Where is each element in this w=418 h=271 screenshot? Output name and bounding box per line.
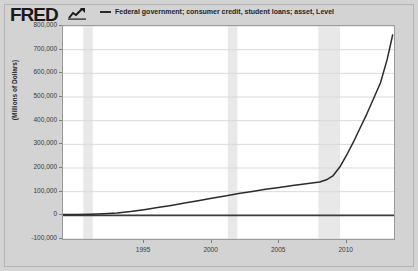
y-tick-mark [59,25,62,26]
line-swatch-icon [100,11,111,13]
chart-legend: Federal government; consumer credit, stu… [100,8,334,16]
x-tick-mark [346,240,347,243]
legend-series-label: Federal government; consumer credit, stu… [115,8,334,16]
x-tick-mark [278,240,279,243]
y-tick-label: 700,000 [1,45,57,52]
recession-bands [83,26,340,239]
x-tick-label: 2005 [258,246,298,254]
plot-area [62,25,395,240]
recession-band [83,26,92,239]
y-tick-label: 300,000 [1,139,57,146]
y-tick-mark [59,214,62,215]
x-tick-mark [143,240,144,243]
y-tick-mark [59,49,62,50]
recession-band [318,26,340,239]
chart-line-icon [68,7,86,20]
x-tick-label: 2010 [326,246,366,254]
y-tick-label: 200,000 [1,163,57,170]
y-tick-label: 400,000 [1,116,57,123]
y-tick-mark [59,167,62,168]
y-tick-mark [59,191,62,192]
y-tick-label: 800,000 [1,21,57,28]
y-tick-label: 0 [1,210,57,217]
recession-band [228,26,237,239]
y-tick-mark [59,120,62,121]
y-tick-mark [59,72,62,73]
y-tick-label: 600,000 [1,68,57,75]
y-axis: (Millions of Dollars) [0,0,62,271]
x-tick-label: 1995 [123,246,163,254]
y-tick-mark [59,143,62,144]
y-tick-label: -100,000 [1,234,57,241]
x-tick-label: 2000 [191,246,231,254]
y-tick-mark [59,238,62,239]
chart-canvas [63,26,394,239]
fred-chart-screenshot: FRED Federal government; consumer credit… [0,0,418,271]
y-tick-mark [59,96,62,97]
y-tick-label: 100,000 [1,187,57,194]
y-tick-label: 500,000 [1,92,57,99]
x-tick-mark [211,240,212,243]
